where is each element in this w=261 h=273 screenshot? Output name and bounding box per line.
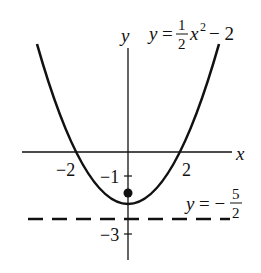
function-label: y = 1 2 x 2 − 2 bbox=[147, 17, 234, 52]
svg-text:x: x bbox=[189, 23, 199, 44]
graph-figure: y x −2 2 −1 −3 y = 1 2 x 2 − 2 y = − 5 2 bbox=[0, 0, 261, 273]
filled-point bbox=[124, 189, 133, 198]
svg-text:2: 2 bbox=[232, 205, 240, 221]
x-tick-label-2: 2 bbox=[182, 160, 191, 180]
svg-text:=: = bbox=[162, 23, 173, 44]
dashed-line-label: y = − 5 2 bbox=[184, 186, 242, 221]
svg-text:2: 2 bbox=[200, 20, 206, 34]
x-tick-label-neg2: −2 bbox=[56, 160, 75, 180]
y-axis-label: y bbox=[119, 25, 130, 46]
svg-text:2: 2 bbox=[178, 36, 186, 52]
svg-text:y: y bbox=[184, 193, 195, 214]
y-tick-label-neg3: −3 bbox=[100, 225, 119, 245]
x-axis-label: x bbox=[235, 143, 245, 164]
svg-text:y: y bbox=[147, 23, 158, 44]
svg-text:= −: = − bbox=[199, 193, 225, 214]
svg-text:1: 1 bbox=[178, 17, 186, 33]
svg-text:− 2: − 2 bbox=[209, 23, 234, 44]
y-tick-label-neg1: −1 bbox=[100, 167, 119, 187]
svg-text:5: 5 bbox=[232, 186, 240, 202]
